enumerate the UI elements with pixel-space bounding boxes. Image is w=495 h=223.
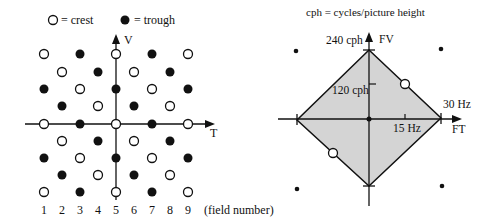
crest-point [40, 120, 49, 129]
crest-point [94, 171, 103, 180]
field-number: 4 [95, 203, 101, 217]
trough-point [184, 85, 193, 94]
figure: = crest = trough V T 123456789 (field nu… [0, 0, 495, 223]
alias-dot [440, 184, 445, 189]
trough-point [40, 154, 49, 163]
crest-point [112, 50, 121, 59]
field-number: 6 [131, 203, 137, 217]
field-number: 3 [77, 203, 83, 217]
crest-point [76, 154, 85, 163]
cph-caption: cph = cycles/picture height [306, 6, 425, 18]
trough-point [58, 171, 67, 180]
field-number: 7 [149, 203, 155, 217]
label-15-hz: 15 Hz [393, 122, 421, 134]
crest-point [184, 188, 193, 197]
alias-dot [295, 187, 300, 192]
crest-point [148, 85, 157, 94]
label-30-hz: 30 Hz [443, 98, 471, 110]
trough-point [76, 120, 85, 129]
ft-axis-label: FT [452, 123, 465, 135]
trough-point [112, 85, 121, 94]
crest-marker-upper [401, 80, 410, 89]
t-axis-label: T [210, 126, 218, 140]
trough-legend-icon [121, 16, 130, 25]
trough-point [166, 68, 175, 77]
fv-arrow-icon [365, 32, 373, 42]
trough-point [130, 102, 139, 111]
trough-point [148, 50, 157, 59]
trough-point [148, 120, 157, 129]
trough-point [184, 154, 193, 163]
crest-point [40, 50, 49, 59]
alias-dot [294, 49, 299, 54]
field-number-label: (field number) [204, 203, 274, 217]
crest-point [184, 50, 193, 59]
trough-point [40, 85, 49, 94]
trough-point [76, 50, 85, 59]
alias-dot [439, 47, 444, 52]
trough-point [94, 137, 103, 146]
crest-point [184, 120, 193, 129]
field-number: 2 [59, 203, 65, 217]
origin-dot [367, 117, 372, 122]
crest-point [130, 137, 139, 146]
crest-legend-icon [49, 16, 58, 25]
v-axis-label: V [124, 33, 133, 47]
trough-point [94, 68, 103, 77]
trough-point [112, 154, 121, 163]
crest-point [58, 68, 67, 77]
label-120-cph: 120 cph [332, 84, 369, 97]
field-numbers: 123456789 [41, 203, 191, 217]
crest-marker-lower [329, 149, 338, 158]
crest-point [58, 137, 67, 146]
v-arrow-icon [112, 34, 120, 44]
crest-point [166, 171, 175, 180]
field-number: 8 [167, 203, 173, 217]
crest-point [130, 68, 139, 77]
trough-point [130, 171, 139, 180]
legend: = crest = trough [49, 13, 176, 27]
ft-arrow-icon [452, 115, 462, 123]
crest-point [112, 120, 121, 129]
trough-point [166, 137, 175, 146]
crest-point [148, 154, 157, 163]
legend-trough-label: = trough [134, 13, 175, 27]
crest-point [40, 188, 49, 197]
field-number: 1 [41, 203, 47, 217]
field-number: 9 [185, 203, 191, 217]
legend-crest-label: = crest [61, 13, 94, 27]
field-number: 5 [113, 203, 119, 217]
crest-point [94, 102, 103, 111]
crest-point [112, 188, 121, 197]
crest-point [166, 102, 175, 111]
crest-point [76, 85, 85, 94]
trough-point [58, 102, 67, 111]
fv-axis-label: FV [379, 33, 394, 45]
trough-point [76, 188, 85, 197]
label-240-cph: 240 cph [326, 34, 363, 47]
trough-point [148, 188, 157, 197]
